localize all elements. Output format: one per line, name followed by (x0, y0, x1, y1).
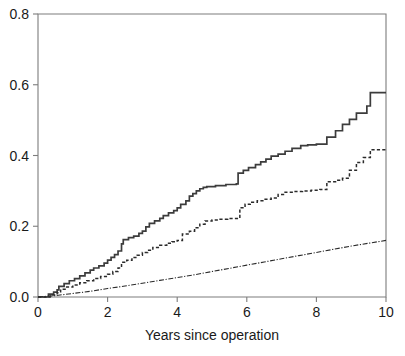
y-tick-label: 0.8 (10, 6, 30, 22)
series-dashed-step-curve (38, 150, 386, 297)
x-tick-label: 6 (243, 304, 251, 320)
y-tick-label: 0.0 (10, 289, 30, 305)
x-tick-label: 8 (313, 304, 321, 320)
x-axis-tick-labels: 0246810 (34, 304, 394, 320)
series-dashdot-smooth-curve (38, 240, 386, 297)
chart-canvas: 0246810 0.00.20.40.60.8 Years since oper… (0, 0, 405, 356)
x-tick-label: 4 (173, 304, 181, 320)
chart-figure: 0246810 0.00.20.40.60.8 Years since oper… (0, 0, 405, 356)
x-axis-title: Years since operation (145, 327, 279, 343)
plot-frame (38, 14, 386, 297)
y-axis-ticks (33, 14, 38, 297)
x-axis-ticks (38, 297, 386, 302)
axes-box (38, 14, 386, 297)
x-tick-label: 10 (378, 304, 394, 320)
x-tick-label: 2 (104, 304, 112, 320)
data-series-group (38, 93, 386, 297)
x-tick-label: 0 (34, 304, 42, 320)
y-tick-label: 0.4 (10, 148, 30, 164)
y-axis-tick-labels: 0.00.20.40.60.8 (10, 6, 30, 305)
series-solid-step-curve (38, 93, 386, 297)
y-tick-label: 0.6 (10, 77, 30, 93)
y-tick-label: 0.2 (10, 218, 30, 234)
